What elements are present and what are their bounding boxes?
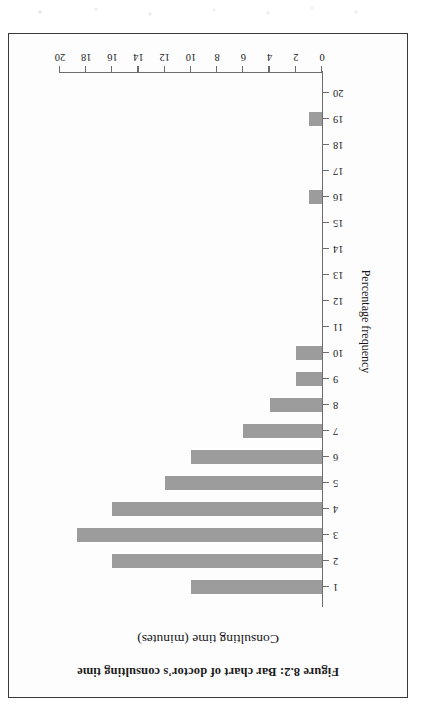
- bar-series: [9, 71, 407, 607]
- value-tick-label: 8: [207, 52, 227, 63]
- scan-speckle-artifact: [0, 0, 421, 28]
- bar: [270, 398, 322, 412]
- value-tick-label: 2: [286, 52, 306, 63]
- bar-chart: Consulting time (minutes) Percentage fre…: [9, 39, 407, 651]
- value-tick-label: 18: [76, 52, 96, 63]
- scanned-page: Figure 8.2: Bar chart of doctor's consul…: [0, 0, 421, 713]
- value-tick-label: 16: [102, 52, 122, 63]
- bar: [296, 372, 322, 386]
- x-axis-title: Consulting time (minutes): [9, 631, 407, 647]
- bar: [165, 476, 322, 490]
- bar: [191, 450, 322, 464]
- value-axis: 02468101214161820: [9, 39, 407, 73]
- figure-frame: Figure 8.2: Bar chart of doctor's consul…: [8, 33, 408, 698]
- bar: [112, 502, 322, 516]
- figure-caption: Figure 8.2: Bar chart of doctor's consul…: [9, 664, 407, 679]
- rotated-figure-stage: Figure 8.2: Bar chart of doctor's consul…: [9, 34, 407, 697]
- bar: [191, 581, 322, 595]
- value-tick-label: 4: [260, 52, 280, 63]
- value-tick-label: 10: [181, 52, 201, 63]
- value-tick-label: 14: [129, 52, 149, 63]
- bar: [77, 528, 322, 542]
- value-tick-label: 0: [312, 52, 332, 63]
- value-tick-label: 20: [50, 52, 70, 63]
- value-tick-label: 6: [233, 52, 253, 63]
- bar: [309, 190, 322, 204]
- bar: [296, 346, 322, 360]
- bar: [309, 112, 322, 126]
- bar: [243, 424, 322, 438]
- bar: [112, 554, 322, 568]
- value-tick-label: 12: [155, 52, 175, 63]
